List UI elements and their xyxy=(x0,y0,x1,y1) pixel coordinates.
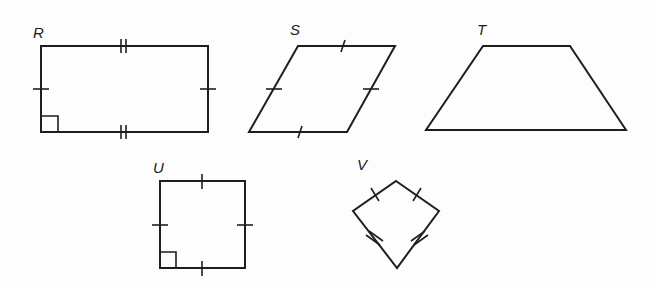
quadrilateral-figure: R S T U xyxy=(0,0,655,288)
label-v: V xyxy=(357,156,369,173)
label-u: U xyxy=(153,159,164,176)
shape-u-square: U xyxy=(152,159,253,276)
shape-r-rectangle: R xyxy=(33,24,216,139)
kite-outline xyxy=(353,181,439,268)
shape-s-rhombus: S xyxy=(249,21,395,138)
label-t: T xyxy=(477,21,488,38)
right-angle-marker xyxy=(160,252,176,268)
rectangle-outline xyxy=(41,46,208,132)
square-outline xyxy=(160,181,245,268)
shape-v-kite: V xyxy=(353,156,439,268)
label-r: R xyxy=(33,24,44,41)
shape-t-trapezoid: T xyxy=(426,21,626,130)
right-angle-marker xyxy=(41,116,58,132)
trapezoid-outline xyxy=(426,46,626,130)
label-s: S xyxy=(290,21,300,38)
figure-svg: R S T U xyxy=(0,0,655,288)
